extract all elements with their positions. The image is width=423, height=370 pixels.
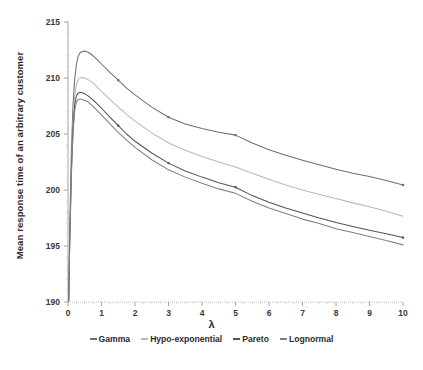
series-line-lognormal [69,99,403,301]
y-tick-label: 190 [26,297,60,307]
legend-line-icon [233,338,240,340]
series-marker [167,116,169,118]
chart-figure: Mean response time of an arbitrary custo… [0,0,423,370]
series-marker [234,186,236,188]
y-tick-label: 195 [26,241,60,251]
x-axis-title: λ [0,318,423,330]
legend-line-icon [90,338,97,340]
x-tick-label: 1 [90,308,114,318]
x-tick-label: 6 [257,308,281,318]
x-tick-label: 3 [157,308,181,318]
series-marker [402,237,404,239]
legend-item[interactable]: Gamma [90,334,131,344]
series-marker [117,79,119,81]
series-line-pareto [69,93,403,301]
x-tick-label: 9 [358,308,382,318]
line-chart-svg [0,0,423,330]
legend-item-label: Gamma [99,334,131,344]
series-marker [402,184,404,186]
series-line-gamma [69,51,403,300]
legend-item-label: Lognormal [289,334,333,344]
series-marker [234,134,236,136]
x-tick-label: 4 [190,308,214,318]
legend-item[interactable]: Lognormal [280,334,333,344]
y-tick-label: 210 [26,73,60,83]
x-tick-label: 8 [324,308,348,318]
x-tick-label: 10 [391,308,415,318]
legend-item-label: Pareto [242,334,269,344]
y-tick-label: 215 [26,17,60,27]
legend-item-label: Hypo-exponential [150,334,222,344]
y-tick-label: 205 [26,129,60,139]
x-tick-label: 7 [291,308,315,318]
chart-legend: GammaHypo-exponentialParetoLognormal [0,334,423,344]
series-marker [167,162,169,164]
legend-line-icon [141,338,148,340]
series-marker [117,125,119,127]
series-line-hypo-exponential [69,77,403,300]
x-tick-label: 0 [56,308,80,318]
y-axis-title: Mean response time of an arbitrary custo… [14,31,25,281]
legend-item[interactable]: Pareto [233,334,269,344]
legend-item[interactable]: Hypo-exponential [141,334,222,344]
y-tick-label: 200 [26,185,60,195]
x-tick-label: 2 [123,308,147,318]
chart-plot-area [0,0,423,330]
legend-line-icon [280,338,287,340]
x-tick-label: 5 [224,308,248,318]
